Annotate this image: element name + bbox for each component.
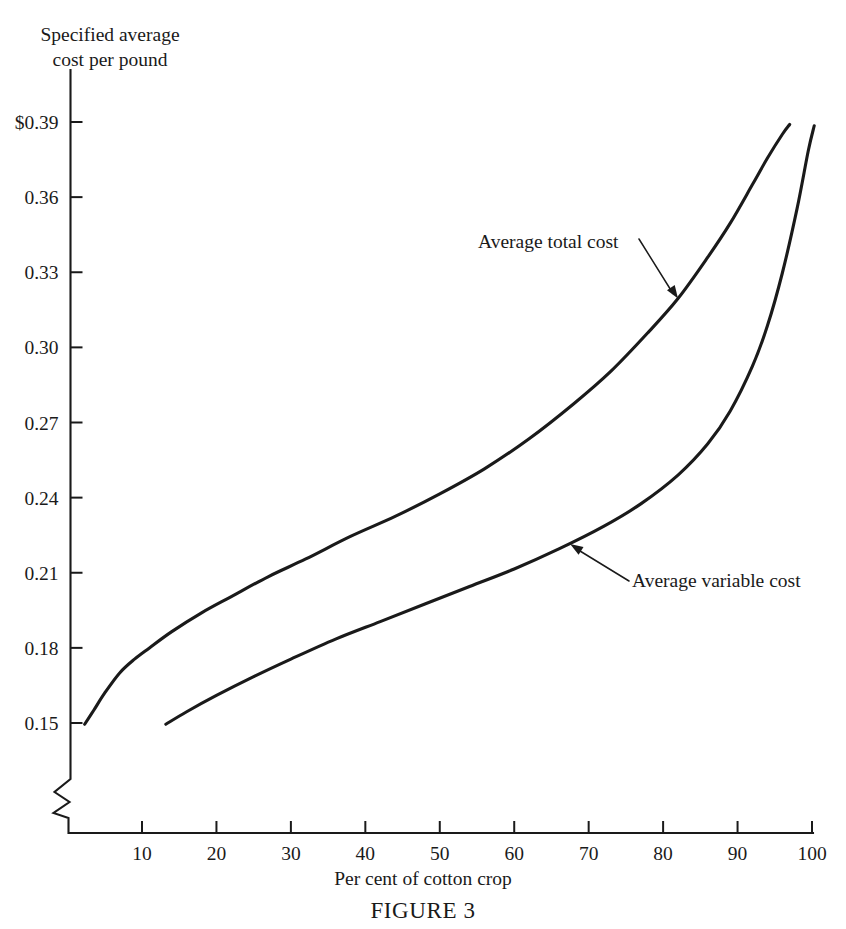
x-axis-tick-label: 100 [797, 843, 826, 864]
y-axis-tick-label: 0.18 [24, 638, 58, 659]
curve-average-variable-cost [166, 126, 814, 724]
chart-plot-area: 0.150.180.210.240.270.300.330.36$0.39102… [0, 0, 846, 929]
series-annotations-group: Average total costAverage variable cost [478, 231, 801, 591]
figure-container: Specified average cost per pound 0.150.1… [0, 0, 846, 929]
x-axis-tick-label: 50 [430, 843, 450, 864]
tick-labels-group: 0.150.180.210.240.270.300.330.36$0.39102… [15, 112, 827, 864]
x-axis-tick-label: 60 [504, 843, 524, 864]
curve-average-total-cost [85, 125, 790, 725]
x-axis-tick-label: 70 [579, 843, 599, 864]
x-axis-caption: Per cent of cotton crop [0, 868, 846, 890]
y-axis-tick-label: 0.21 [24, 563, 58, 584]
y-axis-tick-label: $0.39 [15, 112, 59, 133]
y-axis-tick-label: 0.33 [24, 262, 58, 283]
x-axis-tick-label: 40 [356, 843, 376, 864]
figure-caption: FIGURE 3 [0, 898, 846, 924]
y-axis-tick-label: 0.27 [24, 413, 58, 434]
x-axis-tick-label: 80 [653, 843, 673, 864]
x-axis-tick-label: 30 [281, 843, 301, 864]
x-axis-tick-label: 10 [132, 843, 152, 864]
x-axis-tick-label: 20 [207, 843, 227, 864]
label-average-variable-cost: Average variable cost [632, 570, 801, 591]
axes-group [54, 70, 814, 833]
arrowhead-average-variable-cost [570, 544, 583, 555]
y-axis-tick-label: 0.24 [24, 488, 58, 509]
y-axis-tick-label: 0.36 [24, 187, 58, 208]
label-average-total-cost: Average total cost [478, 231, 619, 252]
y-axis-tick-label: 0.30 [24, 337, 58, 358]
ticks-group [71, 122, 813, 833]
x-axis-tick-label: 90 [728, 843, 748, 864]
data-curves-group [85, 125, 815, 725]
y-axis-tick-label: 0.15 [24, 713, 58, 734]
